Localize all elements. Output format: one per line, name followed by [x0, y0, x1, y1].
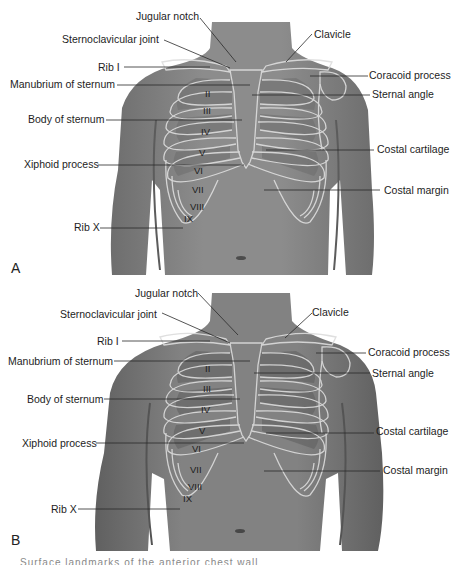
label-sternal-angle: Sternal angle	[372, 368, 434, 379]
rib-numeral-v: V	[199, 425, 205, 436]
label-costal-cartilage: Costal cartilage	[376, 426, 448, 437]
panel-a: Jugular notch Sternoclavicular joint Rib…	[0, 0, 458, 280]
label-clavicle: Clavicle	[312, 307, 349, 318]
panel-letter-b: B	[11, 532, 20, 548]
label-sternoclavicular-joint: Sternoclavicular joint	[60, 309, 157, 320]
rib-numeral-vi: VI	[194, 165, 203, 176]
label-body-of-sternum: Body of sternum	[27, 394, 103, 405]
label-sternoclavicular-joint: Sternoclavicular joint	[62, 34, 159, 45]
rib-numeral-viii: VIII	[190, 201, 204, 212]
label-coracoid-process: Coracoid process	[369, 70, 451, 81]
rib-numeral-iii: III	[203, 105, 211, 116]
label-costal-margin: Costal margin	[384, 185, 449, 196]
label-xiphoid-process: Xiphoid process	[24, 159, 99, 170]
label-xiphoid-process: Xiphoid process	[22, 438, 97, 449]
label-manubrium-of-sternum: Manubrium of sternum	[10, 79, 115, 90]
label-rib-i: Rib I	[97, 336, 119, 347]
panel-letter-a: A	[11, 260, 20, 276]
label-costal-margin: Costal margin	[383, 465, 448, 476]
rib-numeral-vii: VII	[192, 184, 204, 195]
rib-numeral-v: V	[199, 147, 205, 158]
label-costal-cartilage: Costal cartilage	[377, 144, 449, 155]
rib-numeral-iv: IV	[201, 126, 210, 137]
rib-numeral-vi: VI	[192, 443, 201, 454]
label-sternal-angle: Sternal angle	[372, 89, 434, 100]
label-rib-i: Rib I	[98, 62, 120, 73]
label-coracoid-process: Coracoid process	[368, 347, 450, 358]
rib-numeral-ii: II	[205, 88, 210, 99]
label-body-of-sternum: Body of sternum	[28, 114, 104, 125]
panel-b: Jugular notch Sternoclavicular joint Rib…	[0, 283, 458, 553]
rib-numeral-iii: III	[203, 383, 211, 394]
label-rib-x: Rib X	[74, 222, 100, 233]
label-rib-x: Rib X	[51, 504, 77, 515]
rib-numeral-ix: IX	[183, 493, 192, 504]
label-jugular-notch: Jugular notch	[135, 288, 198, 299]
label-jugular-notch: Jugular notch	[136, 11, 199, 22]
rib-numeral-ii: II	[205, 363, 210, 374]
rib-numeral-viii: VIII	[188, 481, 202, 492]
label-clavicle: Clavicle	[314, 29, 351, 40]
figure-caption: Surface landmarks of the anterior chest …	[0, 553, 458, 565]
label-manubrium-of-sternum: Manubrium of sternum	[8, 356, 113, 367]
rib-numeral-vii: VII	[190, 464, 202, 475]
caption-text: Surface landmarks of the anterior chest …	[0, 557, 458, 565]
rib-numeral-ix: IX	[184, 213, 193, 224]
rib-numeral-iv: IV	[201, 404, 210, 415]
